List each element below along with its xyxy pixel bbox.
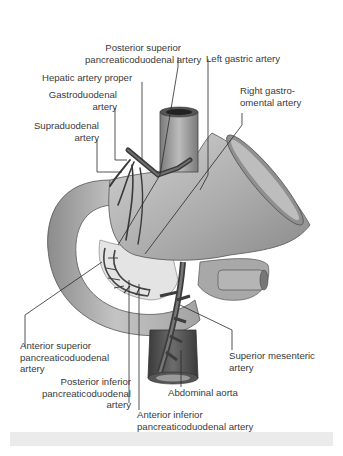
label-posterior-superior-pd-artery: Posterior superior pancreaticoduodenal a…	[85, 42, 181, 65]
label-line: pancreaticoduodenal artery	[85, 54, 181, 66]
label-line: artery	[20, 132, 99, 144]
label-line: Right gastro-	[240, 85, 301, 97]
label-line: artery	[28, 399, 131, 411]
label-line: Hepatic artery proper	[42, 72, 132, 84]
label-line: Supraduodenal	[20, 120, 99, 132]
label-line: pancreaticoduodenal	[28, 388, 131, 400]
label-anterior-inferior-pd-artery: Anterior inferior pancreaticoduodenal ar…	[137, 409, 253, 432]
label-superior-mesenteric-artery: Superior mesenteric artery	[229, 350, 315, 373]
label-line: pancreaticoduodenal artery	[137, 421, 253, 433]
label-line: Posterior inferior	[28, 376, 131, 388]
label-abdominal-aorta: Abdominal aorta	[168, 387, 238, 399]
label-line: Left gastric artery	[206, 53, 280, 65]
jejunum-stub	[198, 259, 269, 301]
label-line: Posterior superior	[85, 42, 181, 54]
label-anterior-superior-pd-artery: Anterior superior pancreaticoduodenal ar…	[20, 340, 109, 375]
label-line: Superior mesenteric	[229, 350, 315, 362]
label-line: artery	[36, 101, 117, 113]
label-posterior-inferior-pd-artery: Posterior inferior pancreaticoduodenal a…	[28, 376, 131, 411]
label-line: Anterior inferior	[137, 409, 253, 421]
label-line: artery	[229, 362, 315, 374]
label-supraduodenal-artery: Supraduodenal artery	[20, 120, 99, 143]
label-line: Gastroduodenal	[36, 89, 117, 101]
label-line: pancreaticoduodenal	[20, 352, 109, 364]
label-left-gastric-artery: Left gastric artery	[206, 53, 280, 65]
label-hepatic-artery-proper: Hepatic artery proper	[42, 72, 132, 84]
label-line: omental artery	[240, 97, 301, 109]
label-right-gastroomental-artery: Right gastro- omental artery	[240, 85, 301, 108]
caption-bar	[10, 432, 333, 446]
label-line: Abdominal aorta	[168, 387, 238, 399]
label-line: Anterior superior	[20, 340, 109, 352]
label-line: artery	[20, 363, 109, 375]
label-gastroduodenal-artery: Gastroduodenal artery	[36, 89, 117, 112]
